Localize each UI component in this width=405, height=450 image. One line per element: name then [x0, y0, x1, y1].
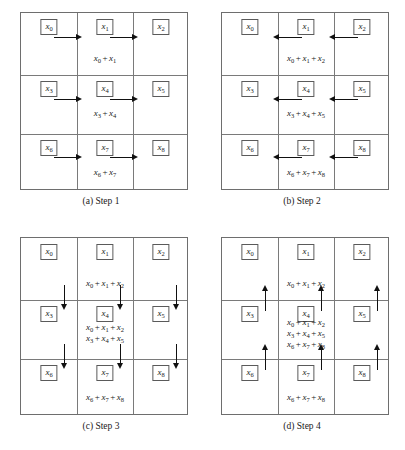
formula-row1: x3+x4 [94, 108, 117, 119]
cell-label-x2: x2 [353, 244, 370, 260]
cell-label-x4: x4 [297, 81, 314, 97]
cell-label-x5: x5 [152, 306, 169, 322]
cell-2-0: x6 [21, 134, 77, 191]
panel-caption-c: (c) Step 3 [0, 421, 202, 431]
formula-row0: x0+x1 [94, 53, 117, 64]
cell-0-1: x1 x0+x1 [77, 13, 133, 75]
cell-label-x6: x6 [241, 365, 258, 381]
formula-row1: x0+x1+x2 x3+x4+x5 x6+x7+x8 [287, 317, 325, 350]
grid-box-b: x0 x1 x0+x1+x2 x2 x3 x4 x3+x4+x5 x5 x6 [221, 12, 389, 190]
panel-step-3: x0 x1 x0+x1+x2 x2 x3 x4 x0+x1+x2 x3+x4+x… [0, 225, 202, 450]
cell-0-0: x0 [21, 13, 77, 75]
grid-box-a: x0 x1 x0+x1 x2 x3 x4 x3+x4 x5 x6 [20, 12, 188, 190]
cell-label-x1: x1 [297, 244, 314, 260]
cell-label-x2: x2 [353, 19, 370, 35]
cell-1-1: x4 x3+x4+x5 [278, 75, 334, 134]
cell-2-2: x8 [334, 134, 390, 191]
formula-row2: x6+x7+x8 [287, 167, 325, 178]
cell-2-0: x6 [21, 359, 77, 416]
cell-0-2: x2 [133, 238, 189, 300]
cell-1-1: x4 x3+x4 [77, 75, 133, 134]
cell-label-x6: x6 [40, 140, 57, 156]
panel-caption-a: (a) Step 1 [0, 196, 202, 206]
cell-0-1: x1 x0+x1+x2 [278, 238, 334, 300]
cell-2-0: x6 [222, 134, 278, 191]
cell-label-x7: x7 [96, 140, 113, 156]
cell-label-x0: x0 [40, 244, 57, 260]
cell-2-1: x7 x6+x7+x8 [77, 359, 133, 416]
cell-label-x8: x8 [152, 140, 169, 156]
cell-label-x5: x5 [353, 81, 370, 97]
cell-2-0: x6 [222, 359, 278, 416]
panel-step-2: x0 x1 x0+x1+x2 x2 x3 x4 x3+x4+x5 x5 x6 [203, 0, 405, 225]
cell-1-0: x3 [21, 75, 77, 134]
cell-2-1: x7 x6+x7+x8 [278, 359, 334, 416]
formula-row0: x0+x1+x2 [287, 53, 325, 64]
cell-label-x3: x3 [241, 81, 258, 97]
formula-line-2: x3+x4+x5 [86, 333, 124, 344]
panel-step-1: x0 x1 x0+x1 x2 x3 x4 x3+x4 x5 x6 [0, 0, 202, 225]
cell-0-2: x2 [133, 13, 189, 75]
formula-line-1: x0+x1+x2 [86, 322, 124, 333]
cell-1-0: x3 [222, 300, 278, 359]
formula-row0: x0+x1+x2 [86, 278, 124, 289]
cell-0-2: x2 [334, 13, 390, 75]
cell-label-x1: x1 [297, 19, 314, 35]
cell-2-2: x8 [133, 359, 189, 416]
cell-1-2: x5 [133, 300, 189, 359]
formula-line-3: x6+x7+x8 [287, 339, 325, 350]
formula-row2: x6+x7 [94, 167, 117, 178]
cell-label-x7: x7 [96, 365, 113, 381]
cell-0-0: x0 [21, 238, 77, 300]
cell-label-x7: x7 [297, 365, 314, 381]
formula-line-2: x3+x4+x5 [287, 328, 325, 339]
cell-label-x8: x8 [152, 365, 169, 381]
cell-0-1: x1 x0+x1+x2 [77, 238, 133, 300]
formula-row2: x6+x7+x8 [86, 392, 124, 403]
cell-label-x0: x0 [40, 19, 57, 35]
cell-0-2: x2 [334, 238, 390, 300]
grid-box-c: x0 x1 x0+x1+x2 x2 x3 x4 x0+x1+x2 x3+x4+x… [20, 237, 188, 415]
formula-row1: x3+x4+x5 [287, 108, 325, 119]
cell-1-2: x5 [133, 75, 189, 134]
cell-2-2: x8 [133, 134, 189, 191]
cell-label-x1: x1 [96, 244, 113, 260]
cell-label-x3: x3 [241, 306, 258, 322]
cell-label-x4: x4 [96, 81, 113, 97]
cell-1-1: x4 x0+x1+x2 x3+x4+x5 x6+x7+x8 [278, 300, 334, 359]
cell-label-x0: x0 [241, 244, 258, 260]
cell-1-2: x5 [334, 300, 390, 359]
cell-1-0: x3 [21, 300, 77, 359]
cell-label-x7: x7 [297, 140, 314, 156]
cell-label-x4: x4 [96, 306, 113, 322]
cell-label-x8: x8 [353, 140, 370, 156]
formula-row0: x0+x1+x2 [287, 278, 325, 289]
cell-label-x1: x1 [96, 19, 113, 35]
cell-label-x5: x5 [152, 81, 169, 97]
cell-1-0: x3 [222, 75, 278, 134]
cell-0-1: x1 x0+x1+x2 [278, 13, 334, 75]
cell-2-2: x8 [334, 359, 390, 416]
panel-step-4: x0 x1 x0+x1+x2 x2 x3 x4 x0+x1+x2 x3+x4+x… [203, 225, 405, 450]
figure-root: x0 x1 x0+x1 x2 x3 x4 x3+x4 x5 x6 [0, 0, 405, 450]
grid-box-d: x0 x1 x0+x1+x2 x2 x3 x4 x0+x1+x2 x3+x4+x… [221, 237, 389, 415]
cell-0-0: x0 [222, 13, 278, 75]
cell-2-1: x7 x6+x7+x8 [278, 134, 334, 191]
formula-row2: x6+x7+x8 [287, 392, 325, 403]
formula-line-1: x0+x1+x2 [287, 317, 325, 328]
cell-label-x5: x5 [353, 306, 370, 322]
cell-0-0: x0 [222, 238, 278, 300]
cell-label-x8: x8 [353, 365, 370, 381]
cell-label-x6: x6 [40, 365, 57, 381]
cell-label-x2: x2 [152, 19, 169, 35]
cell-label-x0: x0 [241, 19, 258, 35]
panel-caption-d: (d) Step 4 [201, 421, 403, 431]
cell-1-1: x4 x0+x1+x2 x3+x4+x5 [77, 300, 133, 359]
cell-label-x6: x6 [241, 140, 258, 156]
cell-label-x3: x3 [40, 306, 57, 322]
formula-row1: x0+x1+x2 x3+x4+x5 [86, 322, 124, 344]
cell-label-x3: x3 [40, 81, 57, 97]
cell-2-1: x7 x6+x7 [77, 134, 133, 191]
cell-label-x2: x2 [152, 244, 169, 260]
panel-caption-b: (b) Step 2 [201, 196, 403, 206]
